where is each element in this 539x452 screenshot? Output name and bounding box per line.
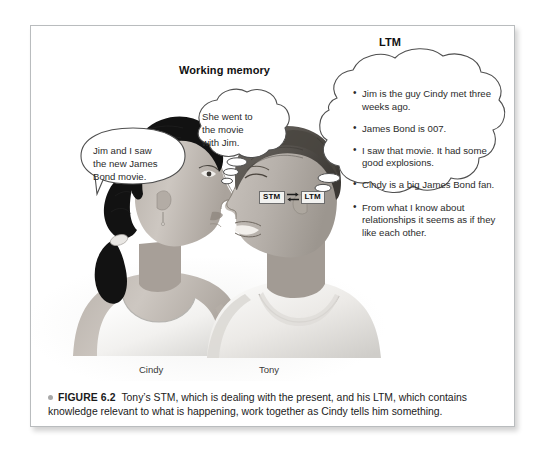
thought-bubble-ltm-list: Jim is the guy Cindy met three weeks ago… [353, 88, 507, 249]
figure-caption: FIGURE 6.2 Tony’s STM, which is dealing … [31, 381, 514, 427]
ltm-item: James Bond is 007. [353, 123, 507, 136]
person-label-cindy: Cindy [139, 364, 163, 375]
ltm-box: LTM [301, 191, 325, 204]
illustration-area: Working memory LTM Jim and I saw the new… [31, 26, 514, 381]
figure-number-label: FIGURE 6.2 [58, 392, 116, 403]
memory-boxes-group: STM LTM [259, 189, 325, 205]
figure-panel: Working memory LTM Jim and I saw the new… [30, 25, 515, 427]
ltm-item: I saw that movie. It had some good explo… [353, 145, 507, 170]
stm-box: STM [259, 191, 285, 204]
thought-bubble-working-memory-text: She went to the movie with Jim. [202, 110, 280, 150]
heading-ltm: LTM [379, 36, 401, 48]
caption-bullet-icon [48, 395, 53, 400]
person-label-tony: Tony [259, 364, 279, 375]
heading-working-memory: Working memory [179, 64, 270, 76]
bidirectional-arrows-icon [286, 191, 300, 203]
speech-bubble-cindy-text: Jim and I saw the new James Bond movie. [93, 144, 189, 184]
ltm-item: Jim is the guy Cindy met three weeks ago… [353, 88, 507, 113]
ltm-item: Cindy is a big James Bond fan. [353, 179, 507, 192]
ltm-item: From what I know about relationships it … [353, 202, 507, 240]
